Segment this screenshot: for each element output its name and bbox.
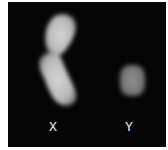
x-label: X: [49, 120, 57, 133]
micrograph-panel: X Y: [8, 2, 166, 147]
x-chromosome: [8, 2, 166, 147]
y-label: Y: [125, 120, 133, 133]
